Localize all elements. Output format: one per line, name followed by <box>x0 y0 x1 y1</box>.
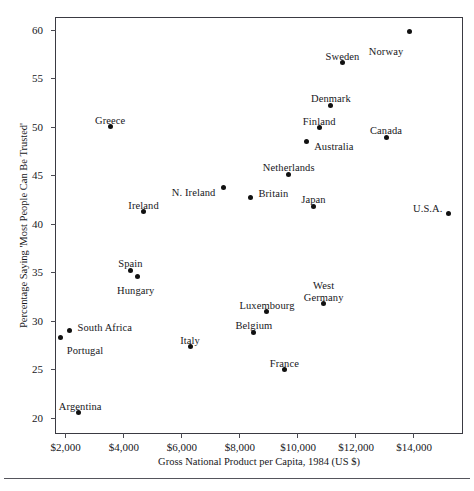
y-axis-tick-label: 20 <box>32 412 43 425</box>
x-axis-tick-label: $4,000 <box>109 441 139 454</box>
data-point-label: Canada <box>370 125 402 136</box>
data-point-label: Belgium <box>235 320 272 331</box>
data-point-label: Netherlands <box>263 162 315 173</box>
data-points-layer: NorwaySwedenDenmarkFinlandCanadaAustrali… <box>55 17 463 434</box>
x-axis-tick-label: $6,000 <box>167 441 197 454</box>
y-axis-tick-label: 55 <box>32 72 43 85</box>
x-axis-tick-label: $8,000 <box>225 441 255 454</box>
y-axis-tick-label: 30 <box>32 315 43 328</box>
y-axis-tick-label: 45 <box>32 169 43 182</box>
footer-divider <box>4 478 470 479</box>
y-axis-tick-label: 35 <box>32 266 43 279</box>
data-point-label: Sweden <box>326 51 360 62</box>
data-point-label: N. Ireland <box>172 187 216 198</box>
y-axis-title: Percentage Saying 'Most People Can Be Tr… <box>16 17 32 434</box>
data-point-label: Japan <box>301 194 325 205</box>
data-point-label: Britain <box>258 188 288 199</box>
y-axis-tick-label: 50 <box>32 121 43 134</box>
data-point-label: Norway <box>369 46 403 57</box>
x-axis-tick-label: $2,000 <box>51 441 81 454</box>
y-axis-tick-label: 25 <box>32 363 43 376</box>
data-point-label: Argentina <box>59 401 102 412</box>
data-point-label: Australia <box>314 141 353 152</box>
data-point-label: Hungary <box>117 285 154 296</box>
data-point-label: West Germany <box>297 280 351 303</box>
data-point-label: Greece <box>95 115 125 126</box>
data-point[interactable] <box>135 274 140 279</box>
data-point-label: Luxembourg <box>239 300 294 311</box>
data-point[interactable] <box>58 335 63 340</box>
data-point-label: Finland <box>303 116 336 127</box>
x-axis-title: Gross National Product per Capita, 1984 … <box>55 455 463 469</box>
y-axis-tick-label: 40 <box>32 218 43 231</box>
data-point-label: Denmark <box>311 93 351 104</box>
data-point[interactable] <box>407 29 412 34</box>
y-axis-tick-label: 60 <box>32 24 43 37</box>
data-point[interactable] <box>248 195 253 200</box>
data-point-label: Spain <box>118 258 142 269</box>
data-point-label: U.S.A. <box>413 203 442 214</box>
data-point-label: Portugal <box>67 345 103 356</box>
x-axis-tick-label: $14,000 <box>396 441 432 454</box>
data-point-label: France <box>270 358 299 369</box>
x-axis-tick-label: $12,000 <box>338 441 374 454</box>
data-point-label: Ireland <box>128 200 158 211</box>
data-point-label: South Africa <box>78 322 133 333</box>
data-point-label: Italy <box>180 335 200 346</box>
data-point[interactable] <box>67 328 72 333</box>
data-point[interactable] <box>221 185 226 190</box>
x-axis-tick-label: $10,000 <box>280 441 316 454</box>
data-point[interactable] <box>304 139 309 144</box>
scatter-plot-figure: 202530354045505560 $2,000$4,000$6,000$8,… <box>0 0 474 491</box>
data-point[interactable] <box>446 211 451 216</box>
